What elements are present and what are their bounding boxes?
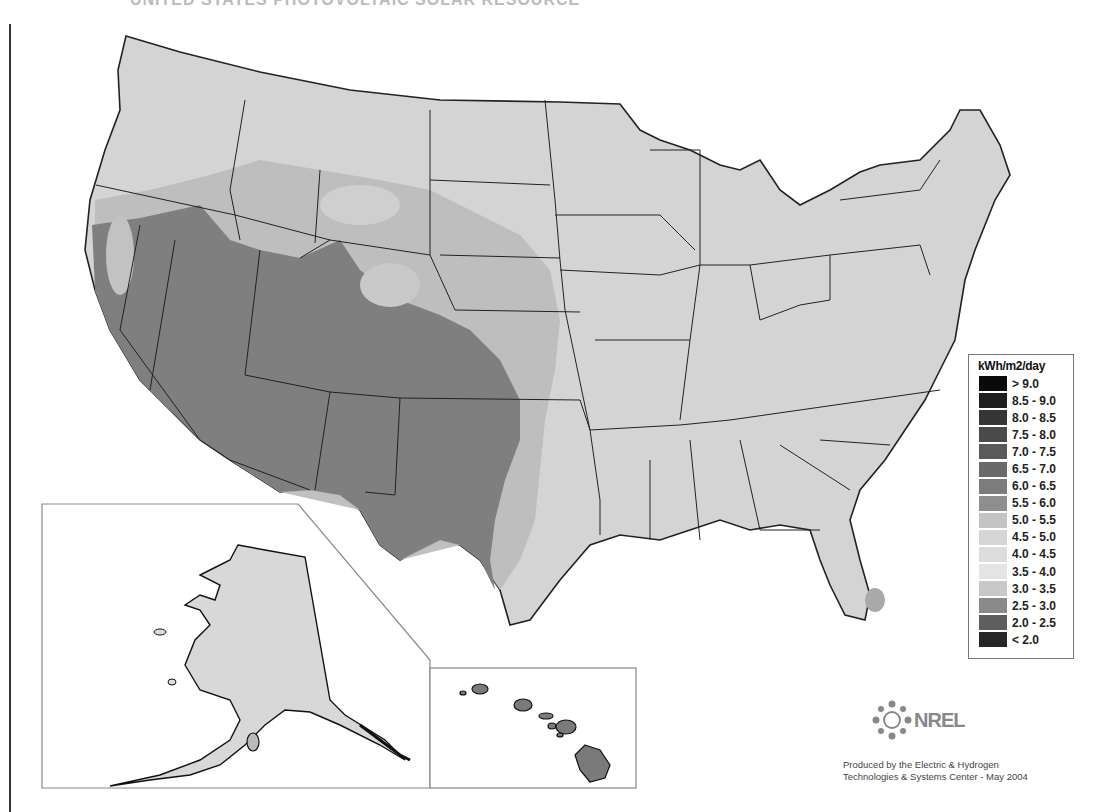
legend-item: 6.5 - 7.0: [975, 460, 1073, 477]
legend: kWh/m2/day > 9.08.5 - 9.08.0 - 8.57.5 - …: [968, 354, 1074, 659]
legend-label: 3.0 - 3.5: [1012, 582, 1056, 596]
nrel-logo: NREL: [872, 700, 964, 740]
legend-item: 2.0 - 2.5: [975, 614, 1073, 631]
legend-label: 2.0 - 2.5: [1012, 616, 1056, 630]
legend-swatch: [979, 615, 1007, 630]
legend-swatch: [979, 530, 1007, 545]
legend-item: 2.5 - 3.0: [975, 597, 1073, 614]
legend-swatch: [979, 376, 1007, 391]
coastal-light-patch: [106, 215, 134, 295]
legend-swatch: [979, 581, 1007, 596]
logo-text: NREL: [914, 709, 964, 732]
sun-logo-icon: [872, 700, 912, 740]
legend-item: 7.5 - 8.0: [975, 426, 1073, 443]
credit-line-1: Produced by the Electric & Hydrogen: [843, 759, 1028, 771]
legend-label: 4.0 - 4.5: [1012, 547, 1056, 561]
legend-swatch: [979, 496, 1007, 511]
legend-item: 3.5 - 4.0: [975, 563, 1073, 580]
legend-swatch: [979, 444, 1007, 459]
legend-swatch: [979, 564, 1007, 579]
legend-item: 8.5 - 9.0: [975, 392, 1073, 409]
hawaii-inset: [430, 668, 636, 788]
legend-item: 8.0 - 8.5: [975, 409, 1073, 426]
legend-label: 4.5 - 5.0: [1012, 530, 1056, 544]
light-patch: [320, 185, 400, 225]
alaska-inset: [42, 504, 430, 788]
legend-item: 7.0 - 7.5: [975, 443, 1073, 460]
legend-label: 7.5 - 8.0: [1012, 428, 1056, 442]
legend-item: 5.0 - 5.5: [975, 512, 1073, 529]
legend-title: kWh/m2/day: [978, 359, 1073, 373]
legend-item: < 2.0: [975, 631, 1073, 648]
legend-swatch: [979, 598, 1007, 613]
legend-swatch: [979, 410, 1007, 425]
legend-label: < 2.0: [1012, 633, 1039, 647]
legend-label: 7.0 - 7.5: [1012, 445, 1056, 459]
legend-swatch: [979, 427, 1007, 442]
legend-swatch: [979, 393, 1007, 408]
light-patch: [360, 263, 420, 307]
legend-label: 8.5 - 9.0: [1012, 394, 1056, 408]
legend-label: > 9.0: [1012, 377, 1039, 391]
legend-label: 5.5 - 6.0: [1012, 496, 1056, 510]
legend-label: 6.5 - 7.0: [1012, 462, 1056, 476]
legend-item: 3.0 - 3.5: [975, 580, 1073, 597]
legend-label: 5.0 - 5.5: [1012, 513, 1056, 527]
legend-label: 6.0 - 6.5: [1012, 479, 1056, 493]
florida-patch: [865, 588, 885, 612]
legend-swatch: [979, 547, 1007, 562]
legend-item: 4.5 - 5.0: [975, 529, 1073, 546]
legend-label: 3.5 - 4.0: [1012, 565, 1056, 579]
credit-line-2: Technologies & Systems Center - May 2004: [843, 771, 1028, 783]
legend-swatch: [979, 513, 1007, 528]
legend-item: > 9.0: [975, 375, 1073, 392]
legend-item: 6.0 - 6.5: [975, 478, 1073, 495]
solar-resource-map: [0, 0, 1119, 812]
legend-label: 2.5 - 3.0: [1012, 599, 1056, 613]
legend-item: 5.5 - 6.0: [975, 495, 1073, 512]
legend-label: 8.0 - 8.5: [1012, 411, 1056, 425]
credit-text: Produced by the Electric & Hydrogen Tech…: [843, 759, 1028, 783]
legend-swatch: [979, 479, 1007, 494]
legend-swatch: [979, 462, 1007, 477]
legend-swatch: [979, 632, 1007, 647]
legend-item: 4.0 - 4.5: [975, 546, 1073, 563]
